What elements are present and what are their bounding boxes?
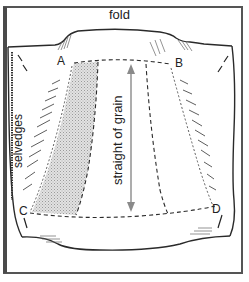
selvedges-label: selvedges xyxy=(12,114,24,168)
grain-arrow xyxy=(127,64,135,212)
hem-hatching xyxy=(40,228,212,242)
point-c-label: C xyxy=(19,205,28,217)
fabric-diagram: fold A B C D selvedges straight of grain xyxy=(0,0,249,282)
seam-b-d xyxy=(171,68,216,208)
fold-wrinkles xyxy=(58,35,192,56)
fold-label: fold xyxy=(109,8,130,21)
point-a-label: A xyxy=(57,55,65,67)
shaded-panel xyxy=(32,62,98,215)
grain-label: straight of grain xyxy=(111,95,124,185)
point-d-label: D xyxy=(212,203,221,215)
point-b-label: B xyxy=(175,57,183,69)
